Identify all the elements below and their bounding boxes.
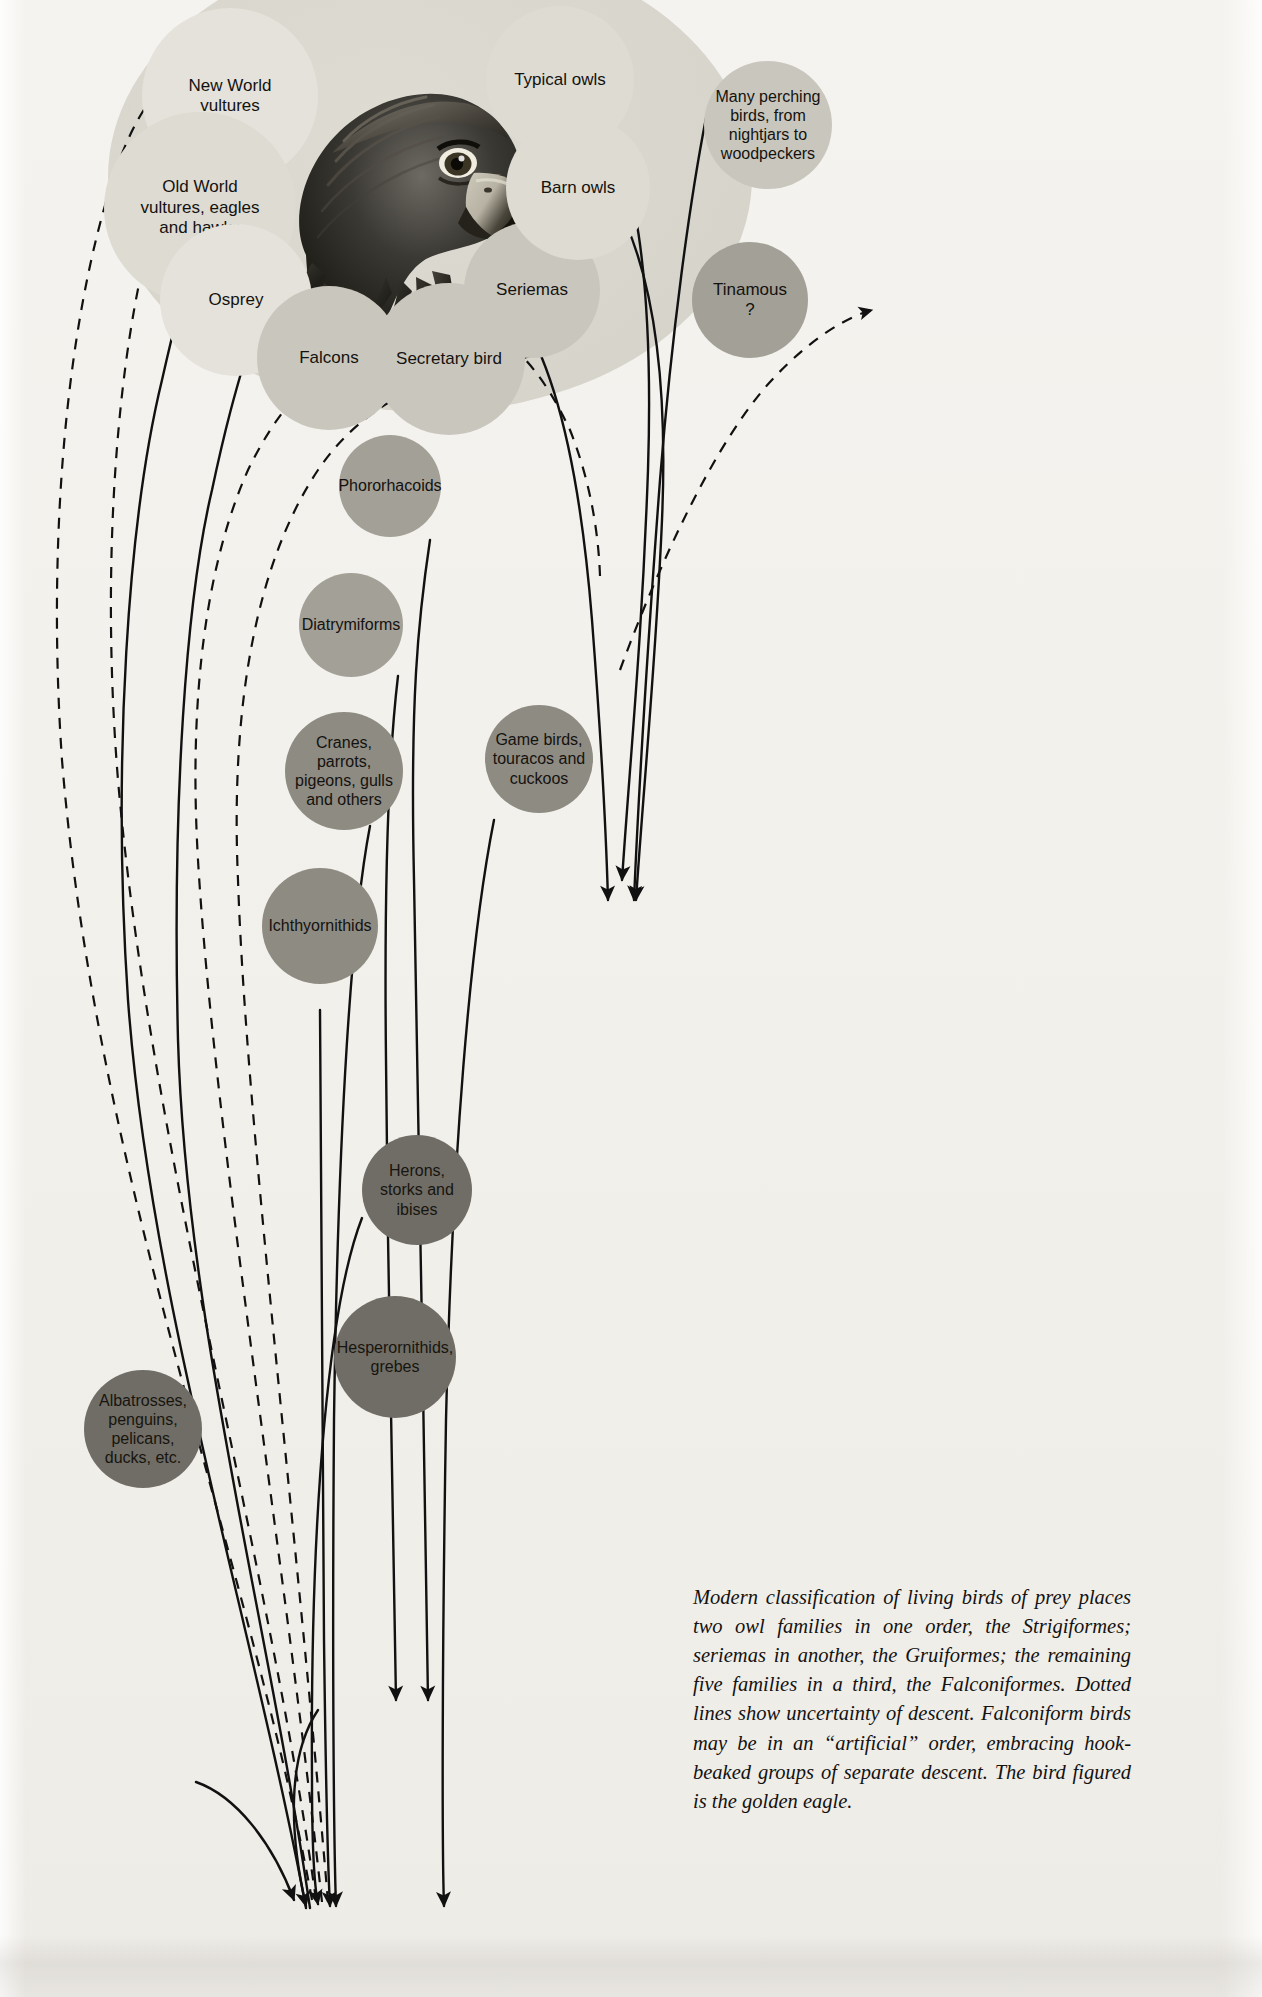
taxon-label: Many perchingbirds, fromnightjars towood…	[710, 87, 827, 164]
taxon-label: Osprey	[203, 290, 270, 310]
solid-line-to-old-world-vultures	[122, 250, 306, 1908]
figure-page: New WorldvulturesOld Worldvultures, eagl…	[0, 0, 1262, 1997]
dashed-line-to-secretary-bird-2	[518, 352, 600, 576]
taxon-bubble-barn-owls[interactable]: Barn owls	[506, 116, 650, 260]
taxon-label: Albatrosses,penguins,pelicans,ducks, etc…	[93, 1391, 193, 1468]
taxon-label: Falcons	[293, 348, 365, 368]
taxon-label: Tinamous?	[707, 280, 793, 321]
solid-line-to-albatrosses	[196, 1782, 294, 1900]
taxon-bubble-game-birds[interactable]: Game birds,touracos andcuckoos	[485, 705, 593, 813]
taxon-bubble-perching-birds[interactable]: Many perchingbirds, fromnightjars towood…	[704, 61, 832, 189]
taxon-label: Game birds,touracos andcuckoos	[487, 730, 592, 788]
taxon-label: Secretary bird	[390, 349, 508, 369]
taxon-label: Diatrymiforms	[296, 615, 407, 634]
figure-caption: Modern classification of living birds of…	[693, 1583, 1131, 1816]
taxon-label: Typical owls	[508, 70, 612, 90]
taxon-bubble-cranes-parrots[interactable]: Cranes,parrots,pigeons, gullsand others	[285, 712, 403, 830]
taxon-bubble-hesperornithids[interactable]: Hesperornithids,grebes	[334, 1296, 456, 1418]
taxon-label: Herons,storks andibises	[374, 1161, 460, 1219]
solid-line-to-osprey	[177, 356, 310, 1908]
taxon-bubble-tinamous[interactable]: Tinamous?	[692, 242, 808, 358]
taxon-label: Hesperornithids,grebes	[331, 1338, 460, 1376]
taxon-bubble-albatrosses[interactable]: Albatrosses,penguins,pelicans,ducks, etc…	[84, 1370, 202, 1488]
taxon-label: Barn owls	[535, 178, 622, 198]
solid-line-to-phororhacoids	[413, 540, 430, 1700]
taxon-label: Cranes,parrots,pigeons, gullsand others	[289, 733, 399, 810]
taxon-bubble-diatrymiforms[interactable]: Diatrymiforms	[299, 573, 403, 677]
taxon-label: Phororhacoids	[332, 476, 447, 495]
taxon-label: Seriemas	[490, 280, 574, 300]
taxon-label: New Worldvultures	[183, 76, 278, 117]
taxon-bubble-herons-storks[interactable]: Herons,storks andibises	[362, 1135, 472, 1245]
taxon-bubble-phororhacoids[interactable]: Phororhacoids	[339, 435, 441, 537]
taxon-bubble-ichthyornithids[interactable]: Ichthyornithids	[262, 868, 378, 984]
taxon-label: Ichthyornithids	[262, 916, 377, 935]
